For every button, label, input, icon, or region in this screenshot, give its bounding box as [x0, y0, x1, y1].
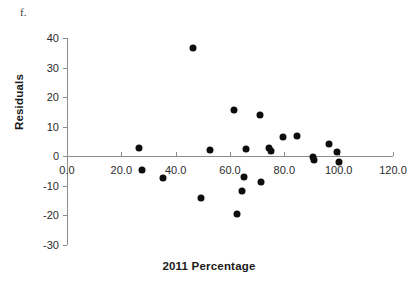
y-tick-mark [63, 245, 67, 246]
scatter-point [240, 173, 247, 180]
x-axis-zero-line [67, 156, 393, 157]
x-tick-label: 100.0 [315, 164, 363, 176]
y-tick-mark [63, 127, 67, 128]
scatter-point [311, 157, 318, 164]
y-tick-mark [63, 68, 67, 69]
y-tick-label: -20 [25, 209, 59, 221]
y-tick-mark [63, 215, 67, 216]
scatter-point [279, 134, 286, 141]
scatter-point [326, 140, 333, 147]
y-tick-label: -30 [25, 239, 59, 251]
y-tick-label: 20 [25, 91, 59, 103]
y-tick-label: 40 [25, 32, 59, 44]
x-tick-mark [393, 152, 394, 156]
y-tick-mark [63, 186, 67, 187]
scatter-point [206, 147, 213, 154]
x-tick-mark [121, 152, 122, 156]
scatter-point [256, 111, 263, 118]
scatter-point [233, 211, 240, 218]
scatter-point [239, 187, 246, 194]
chart-page: f. Residuals 2011 Percentage 403020100-1… [0, 0, 418, 285]
x-tick-mark [176, 152, 177, 156]
y-tick-label: 0 [25, 150, 59, 162]
x-tick-label: 40.0 [152, 164, 200, 176]
x-tick-mark [230, 152, 231, 156]
y-tick-mark [63, 97, 67, 98]
scatter-point [335, 158, 342, 165]
y-tick-label: -10 [25, 180, 59, 192]
scatter-point [138, 167, 145, 174]
y-tick-label: 10 [25, 121, 59, 133]
scatter-point [198, 195, 205, 202]
y-tick-mark [63, 38, 67, 39]
y-tick-label: 30 [25, 62, 59, 74]
scatter-point [231, 107, 238, 114]
scatter-point [190, 45, 197, 52]
scatter-point [267, 147, 274, 154]
x-tick-label: 120.0 [369, 164, 417, 176]
scatter-point [334, 149, 341, 156]
scatter-point [258, 179, 265, 186]
x-tick-mark [284, 152, 285, 156]
y-tick-mark [63, 156, 67, 157]
scatter-point [293, 133, 300, 140]
x-tick-label: 80.0 [260, 164, 308, 176]
scatter-point [135, 145, 142, 152]
scatter-plot-area: 403020100-10-20-300.020.040.060.080.0100… [0, 0, 418, 285]
x-tick-label: 0.0 [43, 164, 91, 176]
scatter-point [160, 174, 167, 181]
y-axis-line [67, 38, 68, 245]
scatter-point [243, 145, 250, 152]
